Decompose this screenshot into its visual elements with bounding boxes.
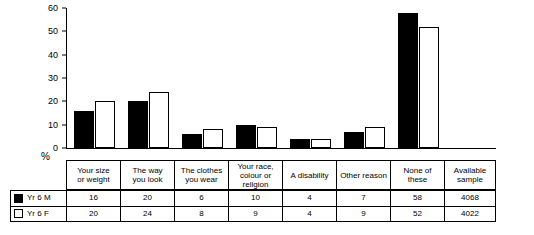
data-cell: 4068 <box>445 191 495 206</box>
data-column: 5852 <box>390 190 444 222</box>
data-table: Yr 6 M Yr 6 F 16202024681094479585240684… <box>10 190 496 222</box>
y-axis-unit-label: % <box>41 152 50 162</box>
data-cell: 16 <box>67 191 120 206</box>
y-tick-label-60: 60 <box>48 4 58 13</box>
data-cell: 8 <box>175 206 228 222</box>
bar-yr-6-f <box>311 139 331 148</box>
data-column: 44 <box>282 190 336 222</box>
bar-yr-6-f <box>149 92 169 148</box>
legend-item-yr6f: Yr 6 F <box>11 206 66 222</box>
bar-yr-6-m <box>236 125 256 148</box>
bar-group <box>175 8 229 148</box>
data-column: 40684022 <box>444 190 496 222</box>
y-tick-label-30: 30 <box>48 74 58 83</box>
legend-swatch-solid-icon <box>14 194 23 203</box>
x-axis-line <box>66 148 496 149</box>
plot-area: 0 10 20 30 40 50 60 <box>38 8 496 160</box>
category-label-cell: Other reason <box>336 160 390 190</box>
bar-yr-6-f <box>257 127 277 148</box>
bar-group <box>337 8 391 148</box>
legend-label-yr6f: Yr 6 F <box>27 210 49 218</box>
bar-yr-6-f <box>95 101 115 148</box>
data-column: 109 <box>228 190 282 222</box>
data-cell: 9 <box>229 206 282 222</box>
data-cell: 4022 <box>445 206 495 222</box>
bars-container <box>67 8 496 148</box>
bar-group <box>391 8 445 148</box>
bar-yr-6-f <box>203 129 223 148</box>
bar-yr-6-f <box>419 27 439 148</box>
legend-item-yr6m: Yr 6 M <box>11 191 66 206</box>
chart-figure: 0 10 20 30 40 50 60 % Your sizeor weight… <box>0 0 534 235</box>
data-cell: 4 <box>283 191 336 206</box>
bar-yr-6-m <box>182 134 202 148</box>
bar-group <box>229 8 283 148</box>
y-tick-label-10: 10 <box>48 120 58 129</box>
bar-yr-6-m <box>74 111 94 148</box>
data-cell: 10 <box>229 191 282 206</box>
bar-group <box>121 8 175 148</box>
y-tick-label-20: 20 <box>48 97 58 106</box>
bar-yr-6-m <box>344 132 364 148</box>
category-label-cell: Your race,colour orreligion <box>228 160 282 190</box>
bar-yr-6-m <box>128 101 148 148</box>
category-label-cell: The wayyou look <box>120 160 174 190</box>
bar-yr-6-f <box>365 127 385 148</box>
data-cell: 20 <box>121 191 174 206</box>
y-tick-label-50: 50 <box>48 27 58 36</box>
category-label-cell: The clothesyou wear <box>174 160 228 190</box>
bar-yr-6-m <box>290 139 310 148</box>
y-axis: 0 10 20 30 40 50 60 <box>38 8 62 148</box>
bar-yr-6-m <box>398 13 418 148</box>
category-label-row: Your sizeor weightThe wayyou lookThe clo… <box>66 160 496 190</box>
data-column: 68 <box>174 190 228 222</box>
data-column: 2024 <box>120 190 174 222</box>
data-cell: 20 <box>67 206 120 222</box>
legend-swatch-hollow-icon <box>14 209 23 218</box>
data-cell: 24 <box>121 206 174 222</box>
data-cell: 58 <box>391 191 444 206</box>
legend: Yr 6 M Yr 6 F <box>10 190 66 222</box>
data-column: 79 <box>336 190 390 222</box>
category-label-cell: None of these <box>390 160 444 190</box>
legend-label-yr6m: Yr 6 M <box>27 194 51 202</box>
y-tick-label-0: 0 <box>53 144 58 153</box>
data-cell: 6 <box>175 191 228 206</box>
data-cell: 7 <box>337 191 390 206</box>
data-cell: 52 <box>391 206 444 222</box>
category-label-cell: Your sizeor weight <box>66 160 120 190</box>
data-cell: 4 <box>283 206 336 222</box>
y-tick-label-40: 40 <box>48 50 58 59</box>
data-column: 1620 <box>66 190 120 222</box>
data-cell: 9 <box>337 206 390 222</box>
bar-group <box>283 8 337 148</box>
category-label-cell: A disability <box>282 160 336 190</box>
bar-group <box>67 8 121 148</box>
category-label-cell: Availablesample <box>444 160 496 190</box>
